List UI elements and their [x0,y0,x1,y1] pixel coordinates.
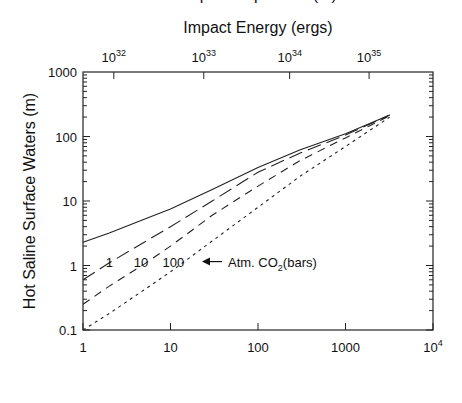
curve-label: 1 [106,255,113,270]
top-axis-title: Impact Energy (ergs) [183,19,332,36]
top-axis-ticks: 1032103310341035 [102,48,382,79]
x-tick-label: 10 [163,340,177,355]
y-tick-label: 1 [70,259,77,274]
curve-label: 10 [134,255,148,270]
curve-label: 100 [163,255,185,270]
series-line-dotted [83,117,390,330]
y-tick-label: 1000 [48,65,77,80]
x-tick-label: 1 [79,340,86,355]
plot-area: 0.111010010001101001000104110100Atm. CO2… [48,65,443,355]
x-tick-label: 1000 [331,340,360,355]
series-line-100 [83,116,390,305]
top-tick-label: 1035 [357,48,381,65]
series-line-1 [83,115,390,242]
y-tick-label: 100 [55,130,77,145]
y-tick-label: 10 [63,194,77,209]
top-tick-label: 1034 [277,48,301,65]
y-tick-label: 0.1 [59,323,77,338]
top-tick-label: 1033 [192,48,216,65]
plot-frame [83,72,433,330]
arrow-left-icon [202,258,210,266]
x-axis-title: Depth Evaporated (m) [179,0,336,3]
x-tick-label: 104 [423,338,442,355]
x-tick-label: 100 [247,340,269,355]
chart-root: Impact Energy (ergs) 1032103310341035 0.… [0,0,462,403]
co2-label: Atm. CO2(bars) [228,255,317,273]
chart-svg: Impact Energy (ergs) 1032103310341035 0.… [0,0,462,403]
y-axis-title: Hot Saline Surface Waters (m) [21,93,38,309]
top-tick-label: 1032 [102,48,126,65]
